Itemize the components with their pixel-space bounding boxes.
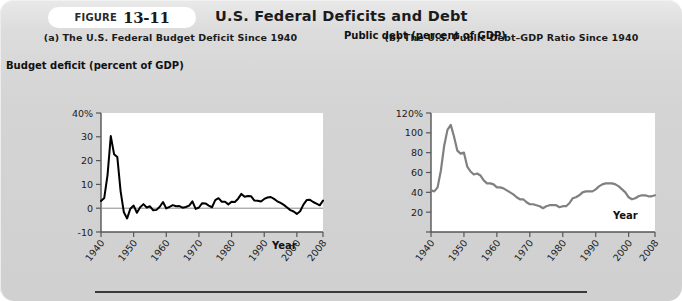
svg-text:40%: 40% <box>72 108 93 119</box>
svg-text:1960: 1960 <box>479 237 503 263</box>
svg-text:2008: 2008 <box>305 237 329 263</box>
svg-text:2000: 2000 <box>611 237 635 263</box>
panel-a-deficit: (a) The U.S. Federal Budget Deficit Sinc… <box>0 30 341 280</box>
svg-text:1980: 1980 <box>214 237 238 263</box>
svg-text:80: 80 <box>411 147 423 158</box>
svg-text:1990: 1990 <box>246 237 270 263</box>
svg-text:-10: -10 <box>77 227 93 238</box>
footer-rule <box>95 291 587 293</box>
svg-text:1980: 1980 <box>545 237 569 263</box>
svg-text:40: 40 <box>411 187 423 198</box>
svg-text:120%: 120% <box>396 108 423 119</box>
svg-text:1970: 1970 <box>512 237 536 263</box>
svg-text:1960: 1960 <box>148 237 172 263</box>
panel-a-plot: -10010203040%194019501960197019801990200… <box>0 30 341 280</box>
figure-title: U.S. Federal Deficits and Debt <box>215 8 468 24</box>
svg-text:20: 20 <box>411 207 423 218</box>
svg-text:2000: 2000 <box>279 237 303 263</box>
svg-text:1950: 1950 <box>446 237 470 263</box>
svg-text:60: 60 <box>411 167 423 178</box>
svg-text:1940: 1940 <box>83 237 107 263</box>
svg-text:0: 0 <box>87 203 93 214</box>
panel-b-debt: (b) The U.S. Public Debt–GDP Ratio Since… <box>341 30 682 280</box>
svg-text:1990: 1990 <box>578 237 602 263</box>
svg-text:1940: 1940 <box>413 237 437 263</box>
svg-text:2008: 2008 <box>637 237 661 263</box>
figure-header: FIGURE 13-11 U.S. Federal Deficits and D… <box>0 4 682 30</box>
svg-text:100: 100 <box>405 127 423 138</box>
svg-text:10: 10 <box>81 179 93 190</box>
panel-b-plot: 20406080100120%1940195019601970198019902… <box>341 30 682 280</box>
svg-text:20: 20 <box>81 155 93 166</box>
figure-number: 13-11 <box>123 9 169 27</box>
figure-label-word: FIGURE <box>74 12 117 23</box>
svg-text:30: 30 <box>81 131 93 142</box>
figure-number-badge: FIGURE 13-11 <box>48 7 196 28</box>
svg-text:1970: 1970 <box>181 237 205 263</box>
figure-container: FIGURE 13-11 U.S. Federal Deficits and D… <box>0 0 682 301</box>
svg-text:1950: 1950 <box>116 237 140 263</box>
panel-b-y-axis-title: Public debt (percent of GDP) <box>344 30 440 42</box>
panel-b-x-axis-title: Year <box>613 210 638 221</box>
